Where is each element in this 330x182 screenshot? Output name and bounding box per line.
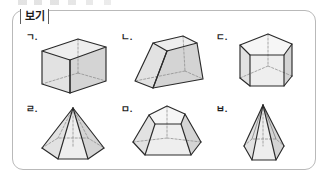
- figure-grid: ㄱ. ㄴ.: [12, 10, 316, 170]
- figure-cell-hexagonal-pyramid[interactable]: ㄹ.: [20, 98, 118, 170]
- figure-label-pentagonal-frustum: ㅁ.: [121, 104, 132, 114]
- figure-cell-pentagonal-frustum[interactable]: ㅁ.: [115, 98, 213, 170]
- scan-artifact: [18, 0, 138, 5]
- figure-label-square-frustum: ㄴ.: [121, 32, 132, 42]
- figure-cell-pentagonal-prism[interactable]: ㄷ.: [210, 26, 308, 98]
- bogi-panel-label: 보기: [20, 9, 49, 24]
- figure-label-tall-hexagonal-pyramid: ㅂ.: [216, 104, 227, 114]
- figure-cell-cube[interactable]: ㄱ.: [20, 26, 118, 98]
- figure-cell-tall-hexagonal-pyramid[interactable]: ㅂ.: [210, 98, 308, 170]
- figure-cell-square-frustum[interactable]: ㄴ.: [115, 26, 213, 98]
- figure-label-pentagonal-prism: ㄷ.: [216, 32, 227, 42]
- figure-label-cube: ㄱ.: [26, 32, 37, 42]
- figure-label-hexagonal-pyramid: ㄹ.: [26, 104, 37, 114]
